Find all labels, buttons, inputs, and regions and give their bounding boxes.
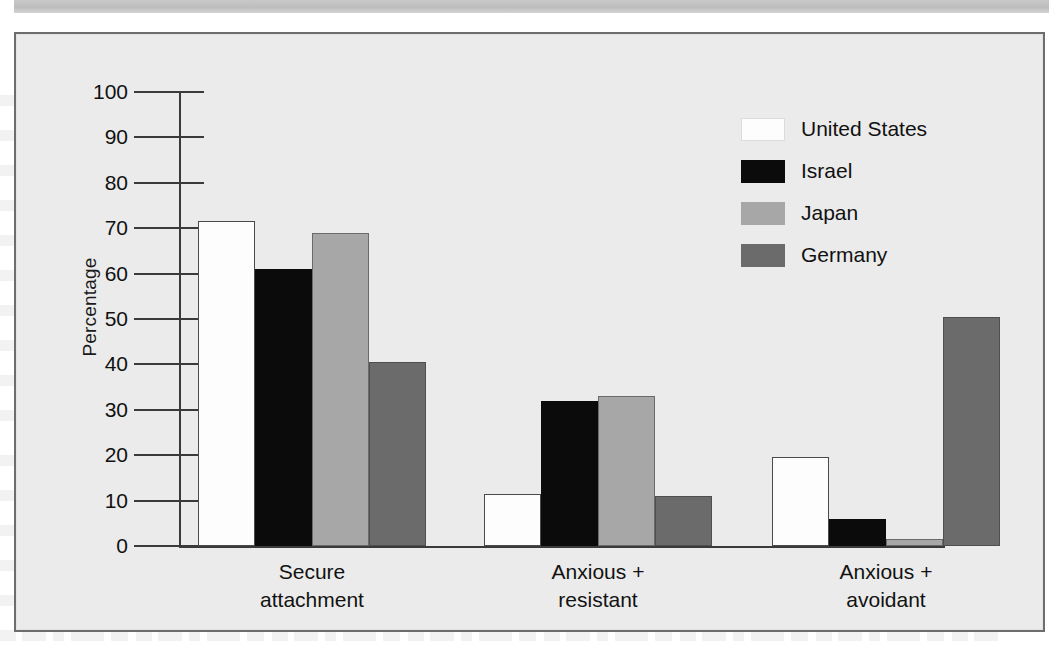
scan-artifact-band (14, 0, 1049, 13)
y-axis-tick (134, 91, 204, 93)
legend-swatch-icon (741, 202, 785, 225)
legend-item-israel: Israel (741, 154, 1001, 188)
legend-item-label: United States (801, 117, 927, 141)
y-axis-tick (134, 136, 204, 138)
chart-figure-frame: Percentage 1009080706050403020100 Secure… (14, 32, 1045, 632)
y-axis-tick-label: 50 (76, 308, 128, 329)
legend-item-label: Japan (801, 201, 858, 225)
x-axis-category-label: Secureattachment (182, 558, 442, 613)
y-axis-tick-label: 0 (76, 535, 128, 556)
category-label-line: Anxious + (468, 558, 728, 586)
bar-japan (598, 396, 655, 546)
y-axis-tick (134, 454, 204, 456)
bar-germany (655, 496, 712, 546)
y-axis-tick-label: 80 (76, 172, 128, 193)
y-axis-tick (134, 409, 204, 411)
x-axis-category-label: Anxious +resistant (468, 558, 728, 613)
category-label-line: resistant (468, 586, 728, 614)
legend-item-japan: Japan (741, 196, 1001, 230)
bar-chart-plot-area: Percentage 1009080706050403020100 Secure… (16, 34, 1047, 634)
bar-us (772, 457, 829, 546)
x-axis-category-label: Anxious +avoidant (756, 558, 1016, 613)
legend-swatch-icon (741, 118, 785, 141)
chart-legend: United StatesIsraelJapanGermany (741, 112, 1001, 280)
bar-israel (541, 401, 598, 546)
legend-item-us: United States (741, 112, 1001, 146)
y-axis-line (179, 92, 181, 548)
bar-us (198, 221, 255, 546)
y-axis-tick (134, 182, 204, 184)
legend-item-label: Germany (801, 243, 887, 267)
y-axis-tick-label: 90 (76, 126, 128, 147)
y-axis-tick (134, 500, 204, 502)
y-axis-tick-label: 60 (76, 263, 128, 284)
y-axis-tick-label: 20 (76, 444, 128, 465)
y-axis-tick-label: 10 (76, 490, 128, 511)
bar-germany (369, 362, 426, 546)
bar-japan (312, 233, 369, 546)
category-label-line: Secure (182, 558, 442, 586)
bar-israel (255, 269, 312, 546)
bar-germany (943, 317, 1000, 546)
legend-item-label: Israel (801, 159, 852, 183)
y-axis-tick-label: 40 (76, 353, 128, 374)
y-axis-tick-label: 70 (76, 217, 128, 238)
y-axis-tick-label: 30 (76, 399, 128, 420)
category-label-line: attachment (182, 586, 442, 614)
legend-swatch-icon (741, 160, 785, 183)
y-axis-tick-label: 100 (76, 81, 128, 102)
bar-japan (886, 539, 943, 546)
legend-swatch-icon (741, 244, 785, 267)
y-axis-tick (134, 363, 204, 365)
y-axis-tick (134, 318, 204, 320)
legend-item-germany: Germany (741, 238, 1001, 272)
bar-us (484, 494, 541, 546)
y-axis-tick (134, 273, 204, 275)
category-label-line: avoidant (756, 586, 1016, 614)
bar-israel (829, 519, 886, 546)
y-axis-tick (134, 227, 204, 229)
category-label-line: Anxious + (756, 558, 1016, 586)
x-axis-line (179, 546, 945, 548)
